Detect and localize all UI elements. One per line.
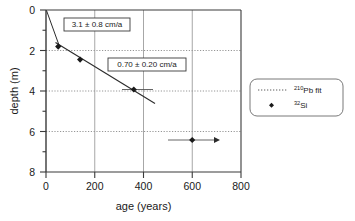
y-tick-label-6: 6: [29, 126, 35, 138]
y-tick-label-4: 4: [29, 85, 35, 97]
y-axis-ticks: [40, 10, 46, 172]
x-tick-label-200: 200: [86, 180, 104, 192]
x-tick-label-400: 400: [135, 180, 153, 192]
y-tick-label-8: 8: [29, 166, 35, 178]
annotation-rate-lower-text: 0.70 ± 0.20 cm/a: [117, 60, 177, 69]
x-axis-label: age (years): [116, 200, 172, 212]
sedimentation-rate-chart: 0 2 4 6 8 0 200 400 600 800 age (years) …: [0, 0, 355, 221]
y-tick-label-2: 2: [29, 45, 35, 57]
x-axis-ticks: [46, 172, 241, 178]
x-tick-label-600: 600: [183, 180, 201, 192]
y-tick-label-0: 0: [29, 4, 35, 16]
legend: 210Pb fit 32Si: [250, 79, 343, 116]
y-axis-label: depth (m): [8, 67, 20, 114]
annotation-rate-upper: 3.1 ± 0.8 cm/a: [64, 18, 130, 31]
x-tick-label-800: 800: [232, 180, 250, 192]
legend-label-si32-main: Si: [300, 101, 307, 110]
x-tick-label-0: 0: [43, 180, 49, 192]
legend-label-pb210-sup: 210: [294, 85, 303, 91]
annotation-rate-lower: 0.70 ± 0.20 cm/a: [108, 58, 186, 71]
legend-label-pb210-main: Pb fit: [303, 86, 322, 95]
annotation-rate-upper-text: 3.1 ± 0.8 cm/a: [72, 20, 123, 29]
